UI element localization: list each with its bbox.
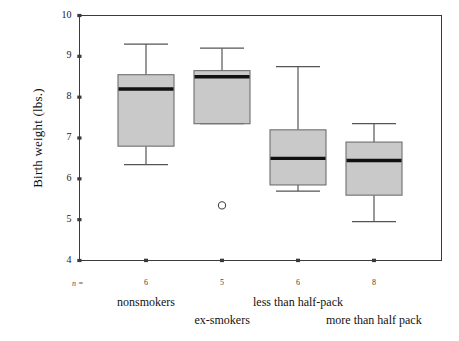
box-plot-figure: Birth weight (lbs.) 45678910n =6568nonsm… <box>0 0 459 341</box>
box-body <box>346 142 402 195</box>
x-axis-tick <box>220 259 224 262</box>
y-axis-tick <box>77 55 81 58</box>
y-axis-tick <box>77 177 81 180</box>
sample-size-value: 5 <box>207 278 237 287</box>
y-axis-tick <box>77 218 81 221</box>
y-axis-tick-label: 9 <box>50 49 72 60</box>
y-axis-tick-label: 5 <box>50 213 72 224</box>
sample-size-value: 8 <box>359 278 389 287</box>
category-label-4: more than half pack <box>326 313 422 328</box>
box-body <box>194 71 250 124</box>
x-axis-tick <box>144 259 148 262</box>
y-axis-tick <box>77 136 81 139</box>
y-axis-tick-label: 6 <box>50 172 72 183</box>
outlier-point <box>218 202 225 209</box>
box-body <box>118 75 174 146</box>
y-axis-tick-label: 7 <box>50 131 72 142</box>
x-axis-tick <box>372 259 376 262</box>
category-label-1: nonsmokers <box>117 295 175 310</box>
y-axis-tick-label: 10 <box>50 9 72 20</box>
y-axis-tick-label: 4 <box>50 254 72 265</box>
n-equals-label: n = <box>72 279 83 288</box>
y-axis-tick <box>77 96 81 99</box>
y-axis-tick-label: 8 <box>50 90 72 101</box>
sample-size-value: 6 <box>283 278 313 287</box>
x-axis-tick <box>296 259 300 262</box>
sample-size-value: 6 <box>131 278 161 287</box>
y-axis-tick <box>77 259 81 262</box>
category-label-2: ex-smokers <box>195 313 250 328</box>
category-label-3: less than half-pack <box>253 295 343 310</box>
y-axis-tick <box>77 14 81 17</box>
